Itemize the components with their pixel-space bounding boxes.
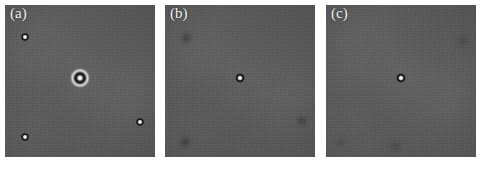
panel-c-blob-upper-right <box>455 33 471 49</box>
panel-b-blob-right-lower <box>295 114 309 128</box>
panel-b-grain-texture <box>165 5 315 157</box>
panel-a-particle-upper-left <box>20 32 29 41</box>
panel-a-central-halo-particle <box>69 67 91 89</box>
panel-c: (c) <box>326 5 476 157</box>
panel-c-central-particle <box>396 73 406 83</box>
panel-a-particle-lower-left <box>20 133 29 142</box>
panel-a-label: (a) <box>10 6 27 21</box>
panel-b-blob-lower-left <box>177 134 192 149</box>
panel-c-label: (c) <box>331 6 348 21</box>
panel-a-mottle-texture <box>5 5 155 157</box>
panel-b-blob-upper-left <box>178 30 194 46</box>
panel-a-vignette <box>5 5 155 157</box>
panel-b-mottle-texture <box>165 5 315 157</box>
panel-c-blob-lower-left <box>335 135 348 148</box>
panel-a-grain-texture <box>5 5 155 157</box>
panel-a-particle-right-lower <box>136 118 145 127</box>
panel-b: (b) <box>165 5 315 157</box>
panel-c-vignette <box>326 5 476 157</box>
panel-a: (a) <box>5 5 155 157</box>
panel-c-grain-texture <box>326 5 476 157</box>
panel-b-central-particle <box>235 73 245 83</box>
panel-b-label: (b) <box>170 6 188 21</box>
panel-b-vignette <box>165 5 315 157</box>
panel-c-blob-bottom-center <box>387 138 403 154</box>
figure-container: (a)(b)(c) <box>0 0 483 171</box>
panel-c-mottle-texture <box>326 5 476 157</box>
